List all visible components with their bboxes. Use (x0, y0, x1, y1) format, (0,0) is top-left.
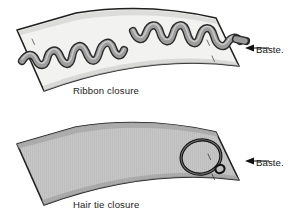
ribbon-tail-right (236, 39, 246, 41)
baste-label-hairtie: Baste. (256, 157, 284, 168)
baste-label-ribbon: Baste. (256, 44, 284, 55)
diagram-canvas: Ribbon closure Baste. (0, 0, 292, 224)
hairtie-closure-caption: Hair tie closure (73, 199, 139, 210)
ribbon-closure-caption: Ribbon closure (73, 85, 139, 96)
hairtie-closure-figure (0, 112, 292, 224)
ribbon-closure-figure (0, 0, 292, 112)
